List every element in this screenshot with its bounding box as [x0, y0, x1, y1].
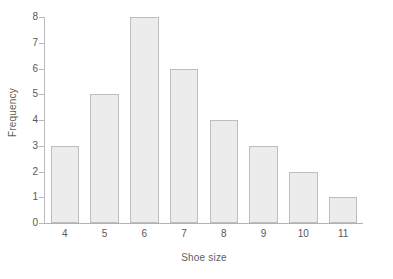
- y-tick-label: 6: [22, 64, 38, 74]
- bar: [90, 94, 119, 223]
- bar: [130, 17, 159, 223]
- x-axis-title: Shoe size: [45, 252, 363, 263]
- y-tick-label: 4: [22, 115, 38, 125]
- y-tick-label: 1: [22, 192, 38, 202]
- x-tick-label: 11: [328, 228, 358, 240]
- x-tick-label: 10: [288, 228, 318, 240]
- y-tick-label: 0: [22, 218, 38, 228]
- x-axis-tick-labels: 4567891011: [45, 228, 363, 242]
- x-tick-label: 5: [90, 228, 120, 240]
- bar: [329, 197, 358, 223]
- y-tick-mark: [39, 17, 44, 18]
- y-tick-mark: [39, 43, 44, 44]
- y-tick-mark: [39, 69, 44, 70]
- x-tick-label: 8: [209, 228, 239, 240]
- x-tick-label: 9: [249, 228, 279, 240]
- x-tick-label: 6: [129, 228, 159, 240]
- y-tick-mark: [39, 146, 44, 147]
- y-tick-mark: [39, 223, 44, 224]
- y-axis-title: Frequency: [4, 0, 22, 225]
- y-tick-label: 5: [22, 89, 38, 99]
- bar: [170, 69, 199, 224]
- bar: [51, 146, 80, 223]
- y-tick-label: 3: [22, 141, 38, 151]
- y-tick-label: 2: [22, 167, 38, 177]
- bar: [249, 146, 278, 223]
- x-axis-line: [44, 223, 363, 224]
- y-tick-mark: [39, 120, 44, 121]
- y-axis-tick-labels: 012345678: [22, 12, 38, 223]
- x-tick-label: 4: [50, 228, 80, 240]
- y-tick-mark: [39, 172, 44, 173]
- bar: [210, 120, 239, 223]
- plot-area: [45, 17, 363, 223]
- y-tick-mark: [39, 94, 44, 95]
- y-axis-title-text: Frequency: [8, 88, 19, 137]
- histogram-chart: Frequency 012345678 4567891011 Shoe size: [0, 0, 393, 279]
- y-tick-mark: [39, 197, 44, 198]
- y-tick-label: 7: [22, 38, 38, 48]
- y-tick-label: 8: [22, 12, 38, 22]
- x-tick-label: 7: [169, 228, 199, 240]
- bar: [289, 172, 318, 224]
